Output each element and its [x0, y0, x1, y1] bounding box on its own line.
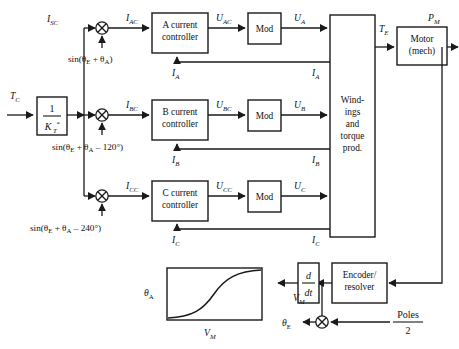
block-diagram-canvas: TC 1 K T * ISC sin(θE + θA)	[0, 0, 459, 349]
multiplier-phase-c	[96, 190, 108, 202]
signal-label-iac: IAC	[125, 12, 138, 25]
mod-a-label: Mod	[256, 24, 274, 34]
poles-denominator: 2	[406, 325, 411, 336]
signal-label-ia-right: IA	[311, 67, 320, 80]
encoder-line2: resolver	[345, 282, 376, 292]
signal-label-ic-right: IC	[311, 234, 320, 247]
ctrl-a-line1: A current	[163, 20, 198, 30]
inset-curve-plot: θA VM	[144, 268, 262, 340]
inset-ylabel: θA	[144, 287, 154, 300]
windings-line-4: torque	[341, 131, 365, 141]
ctrl-b-line1: B current	[163, 107, 198, 117]
windings-line-5: prod.	[343, 143, 362, 153]
windings-line-2: ings	[345, 107, 361, 117]
signal-label-pm: PM	[427, 12, 440, 25]
signal-label-te: TE	[379, 23, 389, 36]
multiplier-phase-a	[96, 22, 108, 34]
windings-line-1: Wind-	[341, 95, 364, 105]
mod-b-label: Mod	[256, 111, 274, 121]
ctrl-c-line1: C current	[163, 188, 198, 198]
feedback-wire-ib	[177, 144, 330, 149]
mod-c-label: Mod	[256, 192, 274, 202]
motor-line2: (mech)	[409, 46, 435, 57]
multiplier-phase-b	[96, 109, 108, 121]
poles-numerator: Poles	[397, 309, 419, 320]
signal-label-ibc: IBC	[125, 99, 138, 112]
label-sin-phase-c: sin(θE + θA – 240°)	[30, 223, 101, 234]
ctrl-c-line2: controller	[162, 200, 199, 210]
signal-label-ib-right: IB	[311, 154, 319, 167]
inset-xlabel: VM	[204, 327, 216, 340]
signal-label-isc: ISC	[46, 13, 59, 26]
derivative-denominator: dt	[305, 287, 313, 298]
diagram-svg: TC 1 K T * ISC sin(θE + θA)	[0, 0, 459, 349]
signal-label-uac: UAC	[216, 12, 232, 25]
feedback-wire-ia	[177, 57, 330, 62]
signal-label-ib-left: IB	[171, 154, 179, 167]
motor-line1: Motor	[410, 34, 434, 44]
windings-line-3: and	[346, 119, 360, 129]
encoder-line1: Encoder/	[343, 270, 377, 280]
signal-label-tc: TC	[10, 90, 20, 103]
gain-denominator: K	[44, 121, 53, 132]
ctrl-a-line2: controller	[162, 32, 199, 42]
signal-label-ub: UB	[294, 99, 305, 112]
signal-label-icc: ICC	[125, 180, 139, 193]
signal-label-ic-left: IC	[171, 234, 180, 247]
gain-denominator-sup: *	[57, 120, 61, 127]
label-sin-phase-a: sin(θE + θA)	[68, 54, 113, 65]
feedback-wire-ic	[177, 224, 330, 229]
signal-label-ucc: UCC	[216, 180, 232, 193]
signal-label-uc: UC	[294, 180, 306, 193]
ctrl-b-line2: controller	[162, 119, 199, 129]
multiplier-poles	[316, 316, 328, 328]
signal-label-ia-left: IA	[171, 67, 180, 80]
feedback-wire-pm-to-encoder	[389, 47, 442, 283]
signal-label-thetae: θE	[282, 317, 291, 330]
label-sin-phase-b: sin(θE + θA – 120°)	[52, 142, 123, 153]
gain-numerator: 1	[50, 103, 55, 114]
signal-label-ubc: UBC	[216, 99, 232, 112]
signal-label-ua: UA	[294, 12, 306, 25]
